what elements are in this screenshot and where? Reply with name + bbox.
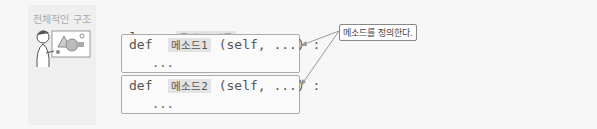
annotation-label: 메소드를 정의한다. xyxy=(339,24,417,41)
annotation-arrows xyxy=(0,0,597,129)
